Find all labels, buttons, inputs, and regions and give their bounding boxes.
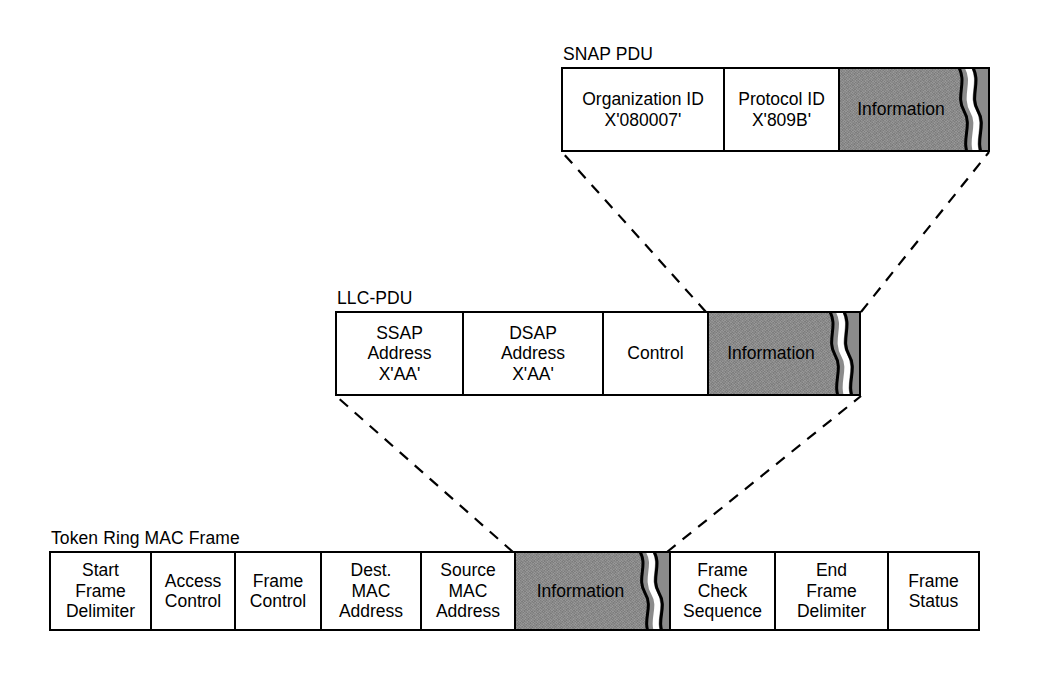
mac-frame-status-line-1: Frame bbox=[908, 571, 959, 592]
mac-efd-line-2: Frame bbox=[806, 581, 857, 602]
mac-field-dest-mac-address[interactable]: Dest. MAC Address bbox=[320, 553, 420, 629]
llc-pdu-field-row: SSAP Address X'AA' DSAP Address X'AA' Co… bbox=[335, 311, 861, 396]
snap-pdu-caption: SNAP PDU bbox=[563, 44, 653, 64]
token-ring-mac-frame-group: Token Ring MAC Frame Start Frame Delimit… bbox=[49, 551, 980, 631]
snap-protocol-id-value: X'809B' bbox=[752, 110, 811, 131]
llc-pdu-group: LLC-PDU SSAP Address X'AA' DSAP Address … bbox=[335, 311, 861, 396]
mac-fcs-line-1: Frame bbox=[697, 560, 748, 581]
protocol-encapsulation-diagram: SNAP PDU Organization ID X'080007' Proto… bbox=[0, 0, 1041, 678]
connector-mac-to-llc-right bbox=[667, 396, 861, 552]
llc-pdu-caption: LLC-PDU bbox=[337, 288, 413, 308]
snap-protocol-id-label: Protocol ID bbox=[738, 89, 825, 110]
mac-field-source-mac-address[interactable]: Source MAC Address bbox=[420, 553, 514, 629]
mac-access-control-line-1: Access bbox=[165, 571, 221, 592]
snap-organization-id-value: X'080007' bbox=[605, 110, 682, 131]
llc-information-torn-edge bbox=[827, 313, 859, 394]
llc-dsap-line-1: DSAP bbox=[509, 323, 557, 344]
llc-ssap-value: X'AA' bbox=[379, 364, 421, 385]
mac-efd-line-1: End bbox=[816, 560, 847, 581]
llc-dsap-value: X'AA' bbox=[512, 364, 554, 385]
snap-pdu-field-row: Organization ID X'080007' Protocol ID X'… bbox=[561, 67, 990, 152]
mac-frame-control-line-1: Frame bbox=[253, 571, 304, 592]
connector-llc-to-snap-right bbox=[861, 152, 989, 312]
snap-organization-id-label: Organization ID bbox=[582, 89, 704, 110]
connector-llc-to-snap-left bbox=[562, 152, 706, 312]
snap-information-label: Information bbox=[857, 99, 945, 120]
mac-access-control-line-2: Control bbox=[165, 591, 221, 612]
mac-source-line-3: Address bbox=[436, 601, 500, 622]
mac-source-line-2: MAC bbox=[449, 581, 488, 602]
mac-field-start-frame-delimiter[interactable]: Start Frame Delimiter bbox=[51, 553, 150, 629]
llc-ssap-line-1: SSAP bbox=[376, 323, 423, 344]
mac-frame-control-line-2: Control bbox=[250, 591, 306, 612]
mac-field-frame-check-sequence[interactable]: Frame Check Sequence bbox=[669, 553, 774, 629]
token-ring-mac-frame-caption: Token Ring MAC Frame bbox=[51, 528, 240, 548]
mac-frame-status-line-2: Status bbox=[909, 591, 959, 612]
mac-information-torn-edge bbox=[637, 553, 669, 629]
llc-field-control[interactable]: Control bbox=[602, 313, 707, 394]
mac-fcs-line-3: Sequence bbox=[683, 601, 762, 622]
llc-field-ssap-address[interactable]: SSAP Address X'AA' bbox=[337, 313, 462, 394]
mac-field-frame-control[interactable]: Frame Control bbox=[234, 553, 320, 629]
mac-fcs-line-2: Check bbox=[698, 581, 748, 602]
mac-dest-line-3: Address bbox=[339, 601, 403, 622]
mac-field-access-control[interactable]: Access Control bbox=[150, 553, 234, 629]
mac-sfd-line-2: Frame bbox=[75, 581, 126, 602]
llc-information-label: Information bbox=[727, 343, 815, 364]
connector-mac-to-llc-left bbox=[336, 396, 513, 552]
llc-field-dsap-address[interactable]: DSAP Address X'AA' bbox=[462, 313, 602, 394]
mac-field-information[interactable]: Information bbox=[514, 553, 669, 629]
mac-dest-line-1: Dest. bbox=[351, 560, 392, 581]
snap-field-information[interactable]: Information bbox=[838, 69, 988, 150]
mac-information-label: Information bbox=[537, 581, 625, 602]
mac-field-frame-status[interactable]: Frame Status bbox=[887, 553, 978, 629]
snap-field-protocol-id[interactable]: Protocol ID X'809B' bbox=[723, 69, 838, 150]
snap-field-organization-id[interactable]: Organization ID X'080007' bbox=[563, 69, 723, 150]
llc-ssap-line-2: Address bbox=[367, 343, 431, 364]
snap-information-torn-edge bbox=[956, 69, 988, 150]
llc-dsap-line-2: Address bbox=[501, 343, 565, 364]
llc-control-label: Control bbox=[627, 343, 683, 364]
mac-source-line-1: Source bbox=[440, 560, 495, 581]
mac-frame-field-row: Start Frame Delimiter Access Control Fra… bbox=[49, 551, 980, 631]
mac-sfd-line-3: Delimiter bbox=[66, 601, 135, 622]
mac-field-end-frame-delimiter[interactable]: End Frame Delimiter bbox=[774, 553, 887, 629]
mac-efd-line-3: Delimiter bbox=[797, 601, 866, 622]
mac-dest-line-2: MAC bbox=[352, 581, 391, 602]
snap-pdu-group: SNAP PDU Organization ID X'080007' Proto… bbox=[561, 67, 990, 152]
llc-field-information[interactable]: Information bbox=[707, 313, 859, 394]
mac-sfd-line-1: Start bbox=[82, 560, 119, 581]
